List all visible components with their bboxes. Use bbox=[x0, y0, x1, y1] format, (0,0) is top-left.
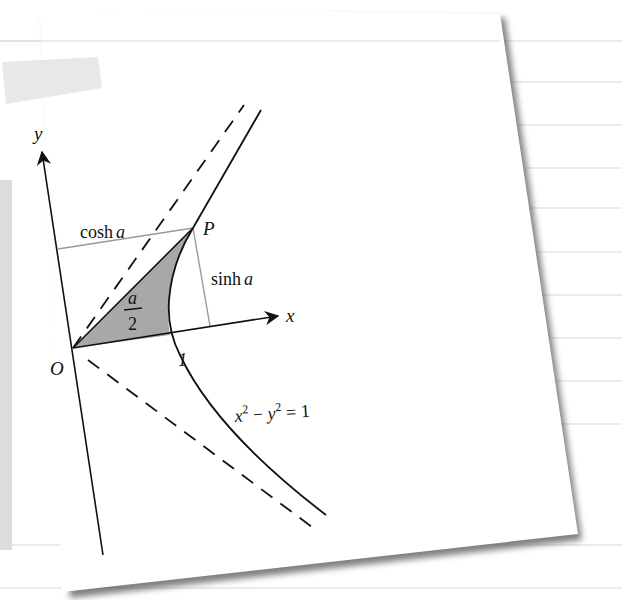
fraction-denominator: 2 bbox=[128, 314, 137, 334]
hyperbola-equation: x2 − y2 = 1 bbox=[233, 398, 311, 426]
sinh-projection-line bbox=[193, 228, 210, 326]
cosh-projection-line bbox=[58, 228, 193, 249]
x-tick-one-label: 1 bbox=[178, 350, 187, 370]
origin-label: O bbox=[50, 358, 64, 379]
y-axis-label: y bbox=[32, 123, 43, 144]
hyperbola-curve bbox=[169, 110, 326, 515]
point-P-label: P bbox=[202, 218, 215, 239]
fraction-numerator: a bbox=[128, 288, 137, 308]
y-axis bbox=[42, 152, 103, 555]
cosh-label: cosha bbox=[80, 222, 125, 242]
hyperbola-diagram: y x O 1 P cosha sinha a 2 x2 − y2 = 1 bbox=[0, 0, 622, 600]
asymptote-lower bbox=[88, 360, 312, 527]
sinh-label: sinha bbox=[211, 269, 253, 289]
x-axis-label: x bbox=[285, 305, 295, 326]
